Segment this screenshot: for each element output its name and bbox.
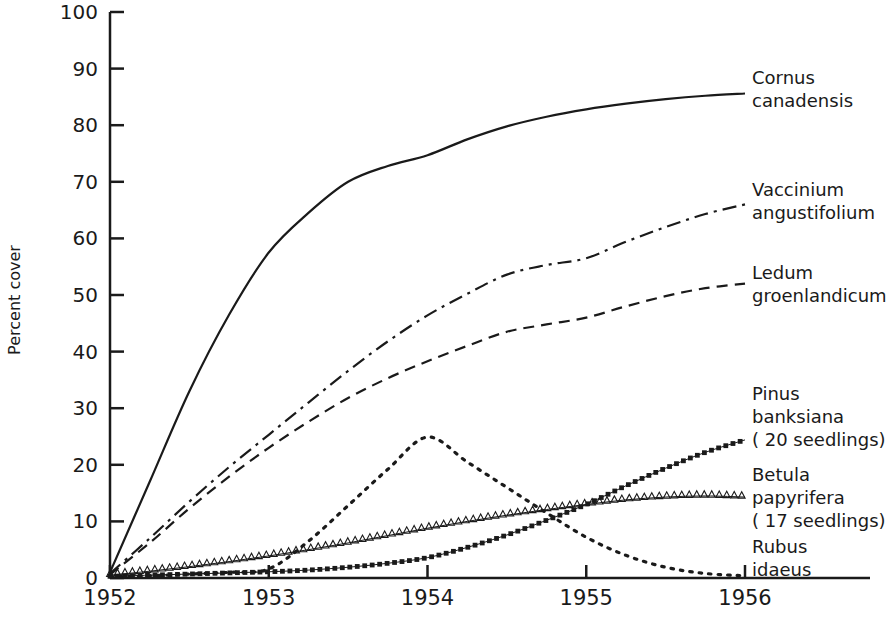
- marker-square: [422, 556, 427, 561]
- marker-square: [451, 549, 456, 554]
- marker-square: [340, 565, 345, 570]
- y-axis-title: Percent cover: [5, 245, 24, 355]
- y-tick-label: 100: [60, 0, 98, 24]
- marker-square: [250, 570, 255, 575]
- marker-square: [487, 538, 492, 543]
- series-label-2: Vaccinium: [752, 179, 844, 200]
- y-tick-label: 10: [73, 509, 98, 533]
- series-line-1: [110, 94, 745, 573]
- marker-square: [198, 571, 203, 576]
- marker-square: [310, 567, 315, 572]
- marker-square: [145, 573, 150, 578]
- marker-square: [273, 569, 278, 574]
- series-line-2: [110, 204, 745, 573]
- marker-square: [444, 551, 449, 556]
- y-tick-label: 30: [73, 396, 98, 420]
- marker-square: [501, 534, 506, 539]
- marker-square: [508, 531, 513, 536]
- marker-square: [695, 453, 700, 458]
- marker-square: [160, 572, 165, 577]
- series-label-6: idaeus: [752, 559, 811, 580]
- marker-square: [303, 568, 308, 573]
- series-path-group: [107, 94, 746, 579]
- series-guide-path: [110, 440, 745, 576]
- marker-square: [213, 571, 218, 576]
- marker-square: [564, 510, 569, 515]
- marker-square: [153, 573, 158, 578]
- series-label-6: Rubus: [752, 536, 807, 557]
- x-tick-label: 1955: [560, 586, 613, 610]
- marker-square: [220, 571, 225, 576]
- marker-square: [660, 467, 665, 472]
- series-label-1: canadensis: [752, 90, 853, 111]
- y-tick-label: 60: [73, 226, 98, 250]
- marker-square: [473, 543, 478, 548]
- marker-square: [362, 563, 367, 568]
- marker-square: [183, 572, 188, 577]
- marker-square: [458, 547, 463, 552]
- y-tick-label: 70: [73, 170, 98, 194]
- x-tick-label: 1953: [242, 586, 295, 610]
- marker-square: [414, 557, 419, 562]
- marker-square: [228, 570, 233, 575]
- marker-square: [168, 572, 173, 577]
- series-line-6: [110, 437, 745, 577]
- marker-square: [377, 562, 382, 567]
- marker-square: [355, 564, 360, 569]
- marker-square: [529, 524, 534, 529]
- series-label-4: Pinus: [752, 383, 800, 404]
- series-label-3: groenlandicum: [752, 285, 887, 306]
- marker-square: [392, 560, 397, 565]
- marker-square: [429, 554, 434, 559]
- marker-square: [653, 470, 658, 475]
- y-tick-label: 40: [73, 340, 98, 364]
- marker-square: [557, 513, 562, 518]
- marker-square: [646, 473, 651, 478]
- marker-square: [606, 492, 611, 497]
- marker-square: [347, 565, 352, 570]
- marker-square: [738, 439, 743, 444]
- marker-square: [243, 570, 248, 575]
- marker-square: [175, 572, 180, 577]
- series-label-group: CornuscanadensisVacciniumangustifoliumLe…: [752, 67, 887, 580]
- marker-square: [667, 464, 672, 469]
- series-label-4: ( 20 seedlings): [752, 429, 886, 450]
- series-label-1: Cornus: [752, 67, 815, 88]
- marker-square: [190, 572, 195, 577]
- marker-square: [317, 567, 322, 572]
- marker-square: [265, 569, 270, 574]
- y-tick-label: 50: [73, 283, 98, 307]
- x-tick-group: 19521953195419551956: [83, 565, 771, 610]
- series-label-4: banksiana: [752, 406, 844, 427]
- marker-square: [465, 545, 470, 550]
- marker-square: [280, 569, 285, 574]
- marker-square: [716, 446, 721, 451]
- marker-square: [674, 461, 679, 466]
- marker-square: [385, 561, 390, 566]
- y-tick-label: 90: [73, 57, 98, 81]
- marker-square: [437, 553, 442, 558]
- marker-square: [522, 526, 527, 531]
- marker-square: [550, 515, 555, 520]
- marker-square: [612, 489, 617, 494]
- series-label-2: angustifolium: [752, 202, 875, 223]
- marker-square: [295, 568, 300, 573]
- x-tick-label: 1952: [83, 586, 136, 610]
- marker-square: [543, 518, 548, 523]
- marker-square: [515, 529, 520, 534]
- y-tick-label: 80: [73, 113, 98, 137]
- marker-square: [205, 571, 210, 576]
- series-baseline: [110, 440, 745, 576]
- marker-square: [633, 479, 638, 484]
- marker-square: [702, 450, 707, 455]
- marker-square: [681, 458, 686, 463]
- marker-square: [480, 541, 485, 546]
- marker-square: [619, 485, 624, 490]
- marker-square: [536, 521, 541, 526]
- series-markers-triangle: [107, 491, 746, 577]
- marker-square: [288, 569, 293, 574]
- y-tick-label: 20: [73, 453, 98, 477]
- series-label-3: Ledum: [752, 262, 813, 283]
- marker-square: [709, 448, 714, 453]
- marker-square: [731, 441, 736, 446]
